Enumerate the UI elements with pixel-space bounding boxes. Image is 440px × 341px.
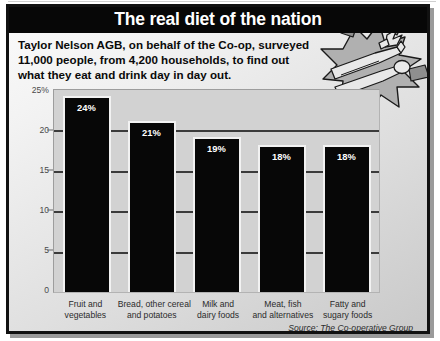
bar-value-label: 24% [77, 102, 96, 292]
infographic-root: The real diet of the nation Taylor Nelso… [0, 0, 440, 341]
category-line: sugary foods [315, 310, 380, 321]
category-label-milk-and-dairy-foods: Milk and dairy foods [186, 299, 251, 321]
bar-value-label: 18% [272, 151, 291, 292]
category-line: and potatoes [118, 310, 186, 321]
category-label-fatty-and-sugary-foods: Fatty and sugary foods [315, 299, 380, 321]
top-rule [8, 1, 436, 2]
y-tick-label-25: 25% [32, 85, 49, 95]
category-line: Meat, fish [251, 299, 316, 310]
category-line: Bread, other cereal [118, 299, 186, 310]
bar-meat-fish-and-alternatives: 18% [258, 145, 306, 292]
y-axis: 25% 20 15 10 5 0 [9, 85, 53, 297]
x-axis-category-labels: Fruit and vegetables Bread, other cereal… [53, 299, 380, 321]
intro-line-2: 11,000 people, from 4,200 households, to… [18, 52, 330, 67]
bar-value-label: 19% [207, 143, 226, 292]
title-bar: The real diet of the nation [9, 7, 427, 33]
category-line: and alternatives [251, 310, 316, 321]
category-label-meat-fish-and-alternatives: Meat, fish and alternatives [251, 299, 316, 321]
bars-container: 24% 21% 19% 18% 18% [54, 90, 379, 292]
y-tick-label-0: 0 [44, 285, 49, 295]
category-label-fruit-and-vegetables: Fruit and vegetables [53, 299, 118, 321]
bar-chart: 25% 20 15 10 5 0 24% [9, 85, 427, 331]
page-title: The real diet of the nation [114, 11, 322, 29]
category-line: Fatty and [315, 299, 380, 310]
intro-paragraph: Taylor Nelson AGB, on behalf of the Co-o… [18, 37, 330, 83]
category-line: vegetables [53, 310, 118, 321]
bar-fatty-and-sugary-foods: 18% [323, 145, 371, 292]
category-line: dairy foods [186, 310, 251, 321]
category-line: Milk and [186, 299, 251, 310]
bar-value-label: 21% [142, 127, 161, 292]
bar-milk-and-dairy-foods: 19% [193, 137, 241, 292]
bar-bread-other-cereal-and-potatoes: 21% [128, 121, 176, 292]
category-label-bread-other-cereal-and-potatoes: Bread, other cereal and potatoes [118, 299, 186, 321]
intro-line-1: Taylor Nelson AGB, on behalf of the Co-o… [18, 37, 330, 52]
intro-line-3: what they eat and drink day in day out. [18, 67, 330, 82]
category-line: Fruit and [53, 299, 118, 310]
source-credit: Source: The Co-operative Group [288, 323, 413, 333]
infographic-frame: The real diet of the nation Taylor Nelso… [6, 4, 430, 334]
bar-value-label: 18% [337, 151, 356, 292]
plot-area: 24% 21% 19% 18% 18% [53, 89, 380, 293]
bar-fruit-and-vegetables: 24% [63, 96, 111, 292]
